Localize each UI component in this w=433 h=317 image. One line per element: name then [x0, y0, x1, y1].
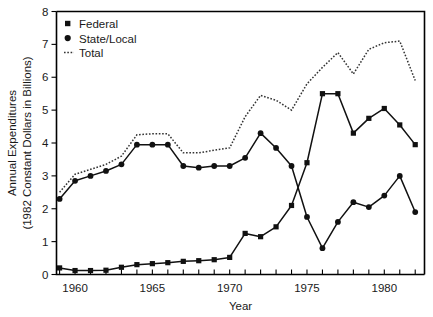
data-point-federal: [273, 224, 278, 229]
x-tick-label: 1980: [372, 282, 398, 294]
data-point-federal: [72, 268, 77, 273]
data-point-state-local: [149, 142, 155, 148]
legend-label-state-local: State/Local: [79, 33, 137, 45]
data-point-state-local: [366, 204, 372, 210]
data-point-state-local: [119, 161, 125, 167]
y-tick-label: 2: [42, 203, 48, 215]
data-point-federal: [397, 122, 402, 127]
data-point-state-local: [381, 193, 387, 199]
series-line-total: [60, 41, 416, 192]
y-tick-label: 1: [42, 236, 48, 248]
data-point-state-local: [320, 245, 326, 251]
data-point-state-local: [273, 145, 279, 151]
data-point-state-local: [165, 142, 171, 148]
data-point-federal: [258, 234, 263, 239]
y-tick-label: 6: [42, 71, 48, 83]
data-point-state-local: [258, 130, 264, 136]
data-point-state-local: [412, 209, 418, 215]
data-point-federal: [304, 160, 309, 165]
x-tick-label: 1960: [62, 282, 88, 294]
y-tick-label: 4: [42, 137, 49, 149]
data-point-federal: [320, 91, 325, 96]
data-point-state-local: [350, 199, 356, 205]
data-point-state-local: [397, 173, 403, 179]
y-tick-label: 3: [42, 170, 48, 182]
data-point-state-local: [180, 163, 186, 169]
y-tick-label: 7: [42, 38, 48, 50]
plot-frame: [57, 12, 425, 275]
data-point-state-local: [227, 163, 233, 169]
data-point-state-local: [304, 214, 310, 220]
data-point-federal: [181, 259, 186, 264]
legend-label-federal: Federal: [79, 18, 118, 30]
data-point-federal: [382, 106, 387, 111]
y-axis-title-line2: (1982 Constant Dollars in Billions): [21, 56, 33, 229]
y-tick-label: 5: [42, 104, 48, 116]
data-point-federal: [413, 142, 418, 147]
legend-marker-state-local: [65, 35, 71, 41]
data-point-federal: [150, 261, 155, 266]
data-point-federal: [134, 262, 139, 267]
axis-lines: [57, 12, 425, 275]
series-line-state-local: [60, 133, 416, 248]
data-point-federal: [289, 203, 294, 208]
x-tick-label: 1970: [217, 282, 243, 294]
data-point-federal: [88, 268, 93, 273]
y-tick-label: 8: [42, 6, 48, 18]
data-point-state-local: [134, 142, 140, 148]
legend-marker-federal: [65, 21, 70, 26]
data-point-federal: [165, 260, 170, 265]
y-tick-label: 0: [42, 269, 48, 281]
data-point-state-local: [289, 163, 295, 169]
data-point-state-local: [196, 165, 202, 171]
expenditures-line-chart: 01234567819601965197019751980YearAnnual …: [0, 0, 433, 317]
data-point-state-local: [72, 178, 78, 184]
series-line-federal: [60, 94, 416, 271]
data-point-state-local: [57, 196, 63, 202]
data-point-state-local: [335, 219, 341, 225]
data-point-federal: [103, 268, 108, 273]
data-point-federal: [227, 255, 232, 260]
data-point-federal: [351, 131, 356, 136]
y-axis-title-line1: Annual Expenditures: [6, 90, 18, 196]
data-point-state-local: [88, 173, 94, 179]
data-point-federal: [196, 258, 201, 263]
data-point-federal: [243, 231, 248, 236]
x-axis-title: Year: [229, 300, 252, 312]
data-point-federal: [335, 91, 340, 96]
data-point-federal: [119, 265, 124, 270]
x-tick-label: 1965: [140, 282, 166, 294]
x-tick-label: 1975: [294, 282, 320, 294]
data-point-federal: [212, 257, 217, 262]
data-point-state-local: [242, 155, 248, 161]
data-point-federal: [366, 116, 371, 121]
data-point-federal: [57, 265, 62, 270]
data-point-state-local: [103, 168, 109, 174]
data-point-state-local: [211, 163, 217, 169]
legend-label-total: Total: [79, 47, 103, 59]
chart-canvas: 01234567819601965197019751980YearAnnual …: [0, 0, 433, 317]
